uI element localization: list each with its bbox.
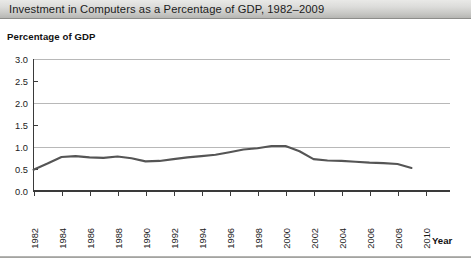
data-series-line [34, 146, 412, 170]
x-tick-group: 1982198419861988199019921994199619982000… [30, 191, 432, 249]
y-tick-label: 0.0 [15, 187, 28, 197]
y-tick-label: 3.0 [15, 55, 28, 65]
x-tick-label: 1986 [86, 228, 96, 249]
gridlines [34, 60, 451, 148]
x-tick-label: 2010 [422, 228, 432, 249]
x-tick-label: 1982 [30, 228, 40, 249]
x-tick-label: 2002 [310, 228, 320, 249]
chart-page: Investment in Computers as a Percentage … [0, 0, 471, 261]
x-tick-label: 2000 [282, 228, 292, 249]
y-tick-label: 2.5 [15, 77, 28, 87]
x-tick-label: 1996 [226, 228, 236, 249]
x-tick-label: 1990 [142, 228, 152, 249]
y-tick-group: 0.00.51.01.52.02.53.0 [15, 55, 37, 197]
x-tick-label: 1992 [170, 228, 180, 249]
bottom-rule [0, 256, 471, 258]
x-tick-label: 1998 [254, 228, 264, 249]
x-tick-label: 2008 [394, 228, 404, 249]
y-tick-label: 1.0 [15, 143, 28, 153]
y-tick-label: 1.5 [15, 121, 28, 131]
x-tick-label: 1984 [58, 228, 68, 249]
line-chart: 0.00.51.01.52.02.53.0 198219841986198819… [0, 0, 471, 261]
x-tick-label: 2004 [338, 228, 348, 249]
x-tick-label: 1994 [198, 228, 208, 249]
y-tick-label: 0.5 [15, 165, 28, 175]
x-tick-label: 1988 [114, 228, 124, 249]
plot-area: 0.00.51.01.52.02.53.0 198219841986198819… [0, 0, 471, 261]
x-tick-label: 2006 [366, 228, 376, 249]
y-tick-label: 2.0 [15, 99, 28, 109]
